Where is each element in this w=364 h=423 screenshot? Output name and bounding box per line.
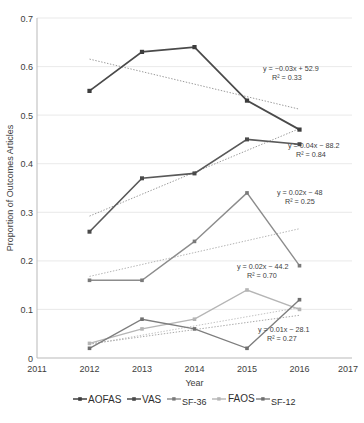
line-chart: 0.7 0.6 0.5 0.4 0.3 0.2 0.1 0 2011 2012 …: [0, 0, 364, 423]
eq-faos-line: y = 0.02x − 44.2: [237, 262, 289, 271]
eq-aofas-line: y = −0.03x + 52.9: [263, 64, 319, 73]
series-line-aofas[interactable]: [90, 47, 300, 130]
legend-label-sf12: SF-12: [271, 397, 296, 407]
marker-sf36-2012[interactable]: [88, 279, 92, 283]
marker-sf12-2015[interactable]: [245, 347, 249, 351]
eq-sf36-r2: R² = 0.25: [285, 197, 315, 206]
legend-label-sf36: SF-36: [182, 397, 207, 407]
y-tick-0.5: 0.5: [20, 111, 33, 121]
eq-sf36-line: y = 0.02x − 48: [277, 188, 323, 197]
annotation-eq-vas: y = 0.04x − 88.2 R² = 0.84: [288, 141, 340, 159]
legend-item-sf12[interactable]: SF-12: [256, 397, 296, 407]
series-line-vas[interactable]: [90, 139, 300, 231]
marker-vas-2015[interactable]: [245, 137, 249, 141]
y-tick-0.6: 0.6: [20, 62, 33, 72]
marker-vas-2013[interactable]: [140, 176, 144, 180]
eq-vas-line: y = 0.04x − 88.2: [288, 141, 340, 150]
x-tick-2013: 2013: [132, 364, 152, 374]
annotation-eq-sf12: y = 0.01x − 28.1 R² = 0.27: [258, 325, 310, 343]
x-tick-2016: 2016: [289, 364, 309, 374]
legend-item-faos[interactable]: FAOS: [212, 393, 255, 404]
series-vas[interactable]: [88, 137, 302, 233]
marker-sf12-2014[interactable]: [193, 327, 197, 331]
marker-aofas-2015[interactable]: [245, 99, 249, 103]
gridlines: [37, 18, 352, 309]
marker-aofas-2014[interactable]: [192, 45, 196, 49]
trendlines: [90, 59, 300, 344]
marker-sf12-2013[interactable]: [140, 317, 144, 321]
legend-label-vas: VAS: [142, 394, 162, 405]
marker-sf12-2012[interactable]: [88, 347, 92, 351]
marker-faos-2015[interactable]: [245, 288, 249, 292]
y-axis-title: Proportion of Outcomes Articles: [5, 124, 15, 251]
marker-vas-2014[interactable]: [193, 171, 197, 175]
marker-vas-2012[interactable]: [88, 230, 92, 234]
annotation-eq-sf36: y = 0.02x − 48 R² = 0.25: [277, 188, 323, 206]
series-aofas[interactable]: [87, 45, 301, 132]
eq-vas-r2: R² = 0.84: [296, 150, 326, 159]
marker-faos-2013[interactable]: [140, 327, 144, 331]
annotation-eq-faos: y = 0.02x − 44.2 R² = 0.70: [237, 262, 289, 280]
legend-item-aofas[interactable]: AOFAS: [73, 394, 122, 405]
marker-aofas-2012[interactable]: [87, 89, 91, 93]
x-tick-2017: 2017: [338, 364, 358, 374]
eq-aofas-r2: R² = 0.33: [272, 73, 302, 82]
legend-marker-sf12: [261, 397, 264, 400]
y-tick-0.3: 0.3: [20, 208, 33, 218]
legend-label-aofas: AOFAS: [88, 394, 122, 405]
chart-legend: AOFAS VAS SF-36 FAOS SF-12: [73, 393, 296, 408]
y-tick-0: 0: [28, 354, 33, 364]
marker-sf36-2016[interactable]: [298, 264, 302, 268]
marker-faos-2014[interactable]: [193, 317, 197, 321]
chart-container: 0.7 0.6 0.5 0.4 0.3 0.2 0.1 0 2011 2012 …: [0, 0, 364, 423]
x-tick-2011: 2011: [27, 364, 46, 374]
eq-sf12-r2: R² = 0.27: [267, 334, 297, 343]
y-axis-tick-labels: 0.7 0.6 0.5 0.4 0.3 0.2 0.1 0: [20, 14, 33, 364]
y-tick-0.2: 0.2: [20, 256, 33, 266]
legend-marker-aofas: [78, 397, 82, 401]
marker-sf36-2015[interactable]: [245, 191, 249, 195]
marker-aofas-2013[interactable]: [140, 50, 144, 54]
legend-marker-sf36: [172, 397, 175, 400]
x-tick-2012: 2012: [79, 364, 99, 374]
legend-item-vas[interactable]: VAS: [127, 394, 162, 405]
y-tick-0.1: 0.1: [20, 305, 33, 315]
x-tick-2015: 2015: [237, 364, 257, 374]
legend-label-faos: FAOS: [228, 393, 255, 404]
legend-marker-faos: [217, 397, 220, 400]
marker-sf36-2013[interactable]: [140, 279, 144, 283]
y-tick-0.4: 0.4: [20, 159, 33, 169]
eq-sf12-line: y = 0.01x − 28.1: [258, 325, 310, 334]
legend-marker-vas: [132, 397, 136, 401]
marker-faos-2016[interactable]: [298, 308, 302, 312]
eq-faos-r2: R² = 0.70: [247, 271, 277, 280]
x-axis-title: Year: [185, 378, 203, 388]
marker-sf12-2016[interactable]: [298, 298, 302, 302]
x-tick-2014: 2014: [184, 364, 204, 374]
marker-sf36-2014[interactable]: [193, 240, 197, 244]
annotation-eq-aofas: y = −0.03x + 52.9 R² = 0.33: [263, 64, 319, 82]
marker-aofas-2016[interactable]: [297, 128, 301, 132]
x-axis-tick-labels: 2011 2012 2013 2014 2015 2016 2017: [27, 364, 358, 374]
legend-item-sf36[interactable]: SF-36: [167, 397, 207, 407]
marker-faos-2012[interactable]: [88, 342, 92, 346]
y-tick-0.7: 0.7: [20, 14, 33, 24]
